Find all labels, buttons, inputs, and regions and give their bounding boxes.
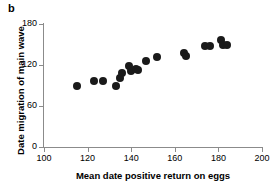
x-tick-mark bbox=[88, 148, 89, 152]
x-axis-title: Mean date positive return on eggs bbox=[43, 170, 263, 181]
plot-area bbox=[44, 24, 262, 147]
y-tick-label: 60 bbox=[27, 101, 37, 110]
x-tick-label: 160 bbox=[160, 154, 190, 163]
scatter-point bbox=[112, 82, 120, 90]
scatter-point bbox=[134, 66, 142, 74]
scatter-point bbox=[153, 53, 161, 61]
x-tick-mark bbox=[131, 148, 132, 152]
x-tick-mark bbox=[44, 148, 45, 152]
scatter-point bbox=[142, 57, 150, 65]
x-tick-mark bbox=[262, 148, 263, 152]
x-tick-mark bbox=[175, 148, 176, 152]
scatter-point bbox=[90, 77, 98, 85]
x-axis-line bbox=[43, 147, 263, 148]
scatter-point bbox=[223, 41, 231, 49]
scatter-point bbox=[99, 77, 107, 85]
figure-panel-b: b 060120180 100120140160180200 Date migr… bbox=[0, 0, 271, 188]
scatter-point bbox=[73, 82, 81, 90]
scatter-point bbox=[182, 52, 190, 60]
y-tick-label: 0 bbox=[32, 142, 37, 151]
x-tick-label: 100 bbox=[29, 154, 59, 163]
x-tick-mark bbox=[218, 148, 219, 152]
x-tick-label: 180 bbox=[203, 154, 233, 163]
scatter-point bbox=[206, 42, 214, 50]
x-tick-label: 120 bbox=[73, 154, 103, 163]
y-axis-title: Date migration of main wave bbox=[15, 21, 26, 161]
x-tick-label: 200 bbox=[247, 154, 271, 163]
panel-label: b bbox=[8, 2, 15, 14]
scatter-point bbox=[118, 69, 126, 77]
x-tick-label: 140 bbox=[116, 154, 146, 163]
